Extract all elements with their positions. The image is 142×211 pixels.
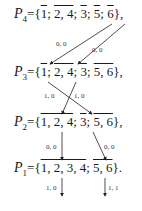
edge-label: 1, 0 — [74, 92, 85, 100]
edge-label: 0, 0 — [104, 143, 115, 151]
refinement-arrows: 0, 0 0, 0 1, 0 1, 0 0, 0 0, 0 1, 0 1, 1 — [0, 0, 142, 211]
edge-label: 1, 0 — [46, 184, 57, 192]
edge-p4-b — [78, 24, 125, 64]
edge-label: 0, 0 — [56, 40, 67, 48]
edge-label: 1, 1 — [108, 184, 119, 192]
edge-label: 1, 0 — [44, 92, 55, 100]
edge-p3-b — [48, 82, 92, 114]
edge-label: 0, 0 — [46, 143, 57, 151]
edge-label: 0, 0 — [92, 46, 103, 54]
